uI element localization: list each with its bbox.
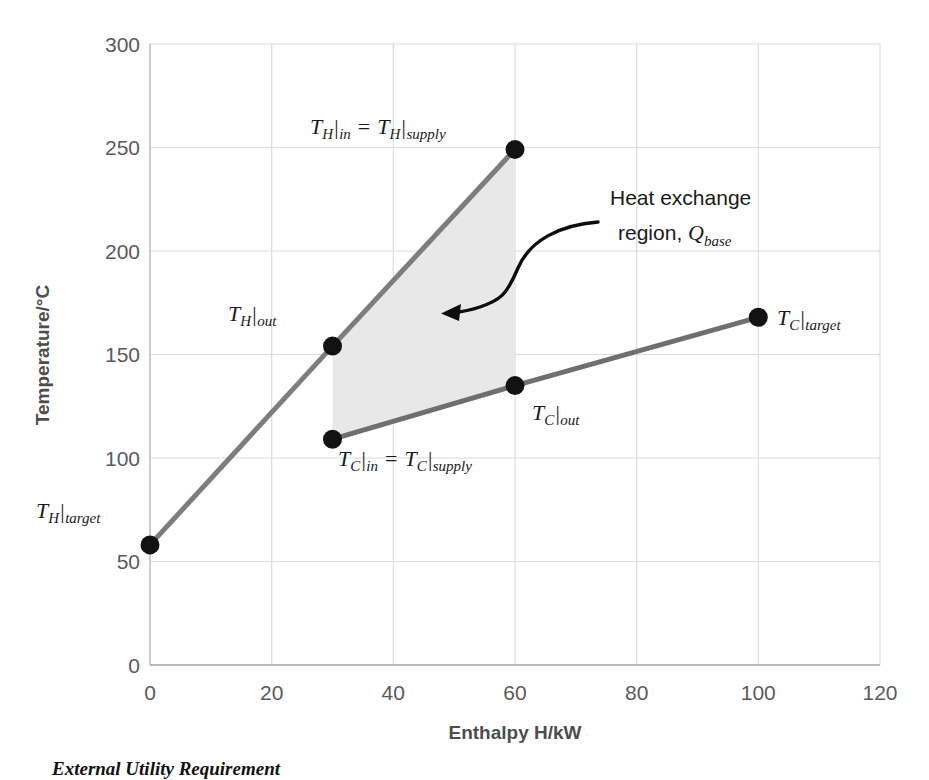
label-hot-target: TH|target — [36, 498, 101, 526]
y-tick-150: 150 — [105, 343, 140, 366]
label-hot-supply-eq: = — [358, 114, 370, 139]
heat-exchange-annotation-symbol-sub: base — [704, 233, 732, 249]
x-tick-100: 100 — [741, 681, 776, 704]
data-point-hot-in — [506, 140, 525, 159]
heat-exchange-annotation-line1: Heat exchange — [610, 186, 751, 209]
x-axis-tick-labels: 0 20 40 60 80 100 120 — [144, 681, 897, 704]
label-cold-target-target: target — [805, 317, 841, 333]
label-hot-supply-in: in — [339, 126, 351, 142]
label-hot-out-out: out — [257, 313, 277, 329]
y-tick-300: 300 — [105, 33, 140, 56]
data-point-hot-out — [323, 337, 342, 356]
figure-caption: External Utility Requirement — [51, 758, 281, 779]
x-tick-80: 80 — [625, 681, 648, 704]
x-tick-60: 60 — [503, 681, 526, 704]
heat-exchange-annotation-symbol: Q — [688, 220, 704, 245]
x-tick-120: 120 — [862, 681, 897, 704]
x-tick-40: 40 — [382, 681, 405, 704]
y-axis-title: Temperature/°C — [32, 285, 53, 426]
heat-exchange-annotation-line2: region, — [618, 221, 688, 244]
y-tick-0: 0 — [128, 654, 140, 677]
x-tick-20: 20 — [260, 681, 283, 704]
y-tick-200: 200 — [105, 240, 140, 263]
label-hot-target-target: target — [65, 510, 101, 526]
svg-text:TH|target: TH|target — [36, 498, 101, 526]
data-point-hot-target — [141, 535, 160, 554]
y-tick-100: 100 — [105, 447, 140, 470]
x-tick-0: 0 — [144, 681, 156, 704]
composite-curve-chart: 300 250 200 150 100 50 0 0 20 40 60 80 1… — [0, 0, 929, 780]
label-cold-out-out: out — [560, 412, 580, 428]
y-tick-50: 50 — [117, 550, 140, 573]
chart-figure: 300 250 200 150 100 50 0 0 20 40 60 80 1… — [0, 0, 929, 780]
x-axis-title: Enthalpy H/kW — [448, 722, 581, 743]
y-tick-250: 250 — [105, 136, 140, 159]
label-hot-supply-supply: supply — [406, 126, 446, 142]
y-axis-tick-labels: 300 250 200 150 100 50 0 — [105, 33, 140, 677]
data-point-cold-target — [749, 308, 768, 327]
data-point-cold-out — [506, 376, 525, 395]
label-cold-supply-in: in — [366, 458, 378, 474]
label-cold-supply-eq: = — [385, 446, 397, 471]
label-cold-supply-supply: supply — [433, 458, 473, 474]
